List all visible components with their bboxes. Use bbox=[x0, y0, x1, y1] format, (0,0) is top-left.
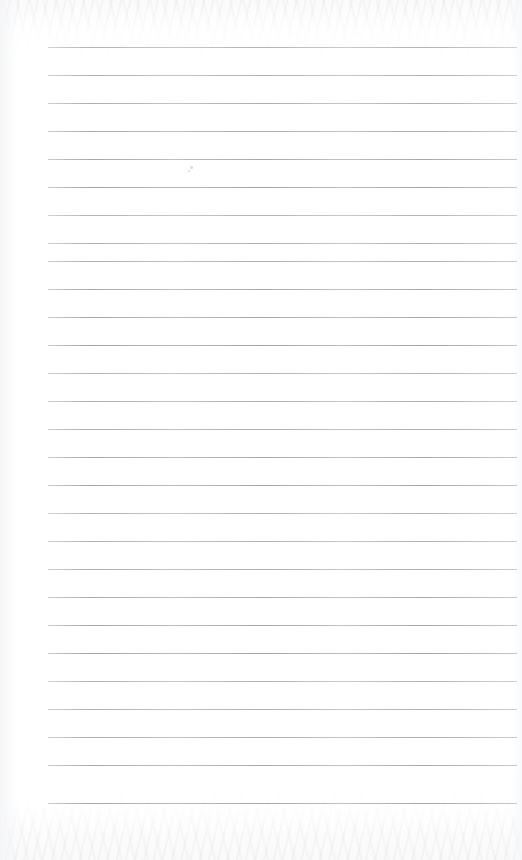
ruled-line bbox=[48, 131, 517, 132]
ruled-line-group bbox=[0, 0, 522, 860]
ruled-line bbox=[48, 485, 517, 486]
ruled-line bbox=[48, 261, 517, 262]
ruled-line bbox=[48, 401, 517, 402]
ruled-line bbox=[48, 709, 517, 710]
ruled-line bbox=[48, 317, 517, 318]
ruled-line bbox=[48, 597, 517, 598]
ruled-line bbox=[48, 373, 517, 374]
ruled-line bbox=[48, 569, 517, 570]
ruled-line bbox=[48, 625, 517, 626]
ruled-line bbox=[48, 103, 517, 104]
ruled-line bbox=[48, 803, 517, 804]
ruled-line bbox=[48, 541, 517, 542]
notebook-page bbox=[0, 0, 522, 860]
ruled-line bbox=[48, 681, 517, 682]
ruled-line bbox=[48, 289, 517, 290]
ruled-line bbox=[48, 457, 517, 458]
ruled-line bbox=[48, 765, 517, 766]
ruled-line bbox=[48, 737, 517, 738]
ruled-line bbox=[48, 345, 517, 346]
ruled-line bbox=[48, 75, 517, 76]
ruled-line bbox=[48, 215, 517, 216]
ruled-line bbox=[48, 243, 517, 244]
ruled-line bbox=[48, 159, 517, 160]
ruled-line bbox=[48, 187, 517, 188]
ruled-line bbox=[48, 47, 517, 48]
ruled-line bbox=[48, 513, 517, 514]
ruled-line bbox=[48, 653, 517, 654]
ruled-line bbox=[48, 429, 517, 430]
